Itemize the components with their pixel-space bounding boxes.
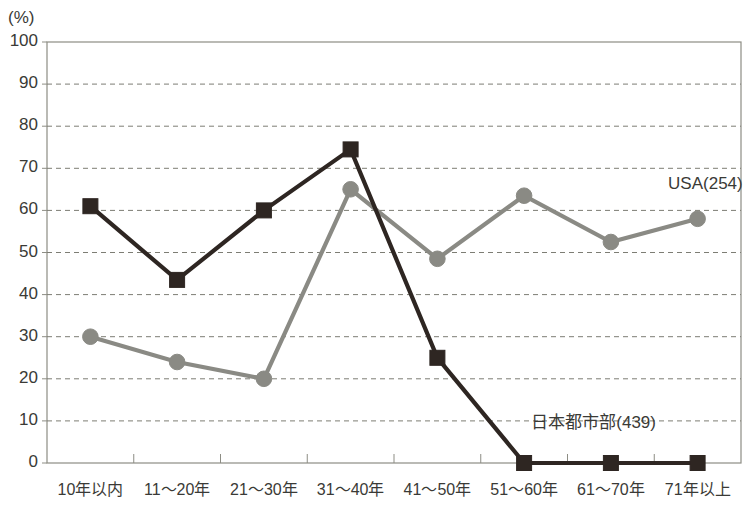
y-axis-tick-label: 70 [0, 157, 38, 177]
data-point-marker-circle [83, 329, 99, 345]
x-axis-tick-label: 41～50年 [404, 476, 472, 500]
y-axis-tick-label: 0 [0, 452, 38, 472]
data-point-marker-square [690, 456, 705, 471]
series-label-japan: 日本都市部(439) [531, 408, 656, 433]
y-axis-tick-label: 40 [0, 284, 38, 304]
x-axis-tick-label: 51～60年 [490, 476, 558, 500]
data-point-marker-circle [430, 251, 446, 267]
x-axis-tick-label: 21～30年 [230, 476, 298, 500]
chart-plot-area [0, 0, 754, 513]
y-axis-tick-label: 90 [0, 73, 38, 93]
x-axis-tick-label: 31～40年 [317, 476, 385, 500]
x-axis-tick-label: 11～20年 [144, 476, 210, 500]
y-axis-tick-label: 30 [0, 326, 38, 346]
data-point-marker-circle [516, 188, 532, 204]
data-point-marker-circle [603, 234, 619, 250]
data-point-marker-square [517, 456, 532, 471]
data-point-marker-circle [690, 211, 706, 227]
data-point-marker-square [256, 203, 271, 218]
y-axis-tick-label: 20 [0, 368, 38, 388]
series-label-usa: USA(254) [668, 174, 743, 194]
data-point-marker-square [603, 456, 618, 471]
y-axis-tick-label: 60 [0, 199, 38, 219]
x-axis-tick-label: 71年以上 [665, 476, 731, 500]
chart-figure: (%) 1009080706050403020100 10年以内11～20年21… [0, 0, 754, 513]
x-axis-tick-label: 10年以内 [57, 476, 123, 500]
y-axis-tick-label: 10 [0, 410, 38, 430]
y-axis-tick-label: 80 [0, 115, 38, 135]
data-point-marker-square [343, 142, 358, 157]
data-point-marker-circle [256, 371, 272, 387]
y-axis-tick-label: 50 [0, 242, 38, 262]
data-point-marker-square [430, 350, 445, 365]
x-axis-tick-label: 61～70年 [577, 476, 645, 500]
data-point-marker-circle [343, 182, 359, 198]
data-point-marker-circle [169, 354, 185, 370]
data-point-marker-square [170, 272, 185, 287]
data-point-marker-square [83, 199, 98, 214]
y-axis-tick-label: 100 [0, 31, 38, 51]
